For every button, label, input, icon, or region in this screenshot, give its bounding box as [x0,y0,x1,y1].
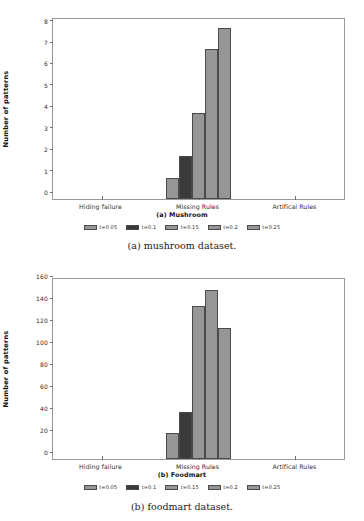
x-tick-mark [295,196,296,200]
bar [179,156,192,199]
figure-caption: (a) mushroom dataset. [0,240,364,251]
legend-swatch-icon [84,485,97,490]
chart-legend: t=0.05t=0.1t=0.15t=0.2t=0.25 [0,484,364,490]
legend-item[interactable]: t=0.15 [165,484,198,490]
y-axis-label: Number of patterns [2,331,10,408]
y-tick-label: 6 [44,60,53,67]
x-tick-label: Artifical Rules [273,203,317,210]
legend-swatch-icon [165,485,178,490]
y-tick-label: 80 [40,361,53,368]
legend-swatch-icon [208,225,221,230]
legend-swatch-icon [126,225,139,230]
legend-item[interactable]: t=0.05 [84,224,117,230]
legend-item[interactable]: t=0.25 [247,224,280,230]
bar [179,412,192,459]
legend-item[interactable]: t=0.1 [126,484,156,490]
legend-item[interactable]: t=0.1 [126,224,156,230]
y-tick-label: 0 [44,449,53,456]
legend-label: t=0.15 [181,224,199,230]
bar [166,178,179,199]
figure-b: Number of patterns020406080100120140160H… [0,260,364,521]
y-axis-label: Number of patterns [2,71,10,148]
figure-caption: (b) foodmart dataset. [0,501,364,512]
legend-label: t=0.05 [99,484,117,490]
legend-item[interactable]: t=0.2 [208,484,238,490]
y-tick-label: 100 [36,339,53,346]
y-tick-label: 3 [44,124,53,131]
y-tick-label: 2 [44,146,53,153]
figure-a: Number of patterns012345678Hiding failur… [0,0,364,260]
bar [218,328,231,459]
legend-label: t=0.1 [142,224,157,230]
y-tick-label: 40 [40,405,53,412]
legend-swatch-icon [247,225,260,230]
plot-area: 020406080100120140160 [52,278,345,460]
y-tick-label: 140 [36,295,53,302]
y-tick-label: 0 [44,189,53,196]
legend-label: t=0.25 [262,224,280,230]
figure-page: Number of patterns012345678Hiding failur… [0,0,364,521]
legend-item[interactable]: t=0.05 [84,484,117,490]
plot-area: 012345678 [52,18,345,200]
chart-subtitle: (b) Foodmart [0,471,364,479]
bar [205,290,218,459]
legend-item[interactable]: t=0.15 [165,224,198,230]
legend-label: t=0.1 [142,484,157,490]
bar [205,49,218,199]
legend-swatch-icon [247,485,260,490]
x-tick-label: Hiding failure [79,463,122,470]
x-tick-label: Missing Rules [176,463,219,470]
legend-label: t=0.25 [262,484,280,490]
y-tick-label: 4 [44,103,53,110]
bar [192,306,205,459]
legend-swatch-icon [126,485,139,490]
y-tick-label: 160 [36,273,53,280]
x-tick-label: Hiding failure [79,203,122,210]
legend-label: t=0.2 [223,484,238,490]
bar [166,433,179,459]
y-tick-label: 8 [44,17,53,24]
bar [218,28,231,199]
y-tick-label: 60 [40,383,53,390]
legend-item[interactable]: t=0.25 [247,484,280,490]
plot-inner: 012345678 [53,19,344,199]
x-tick-label: Missing Rules [176,203,219,210]
plot-inner: 020406080100120140160 [53,279,344,459]
chart-legend: t=0.05t=0.1t=0.15t=0.2t=0.25 [0,224,364,230]
y-tick-label: 1 [44,167,53,174]
y-tick-label: 20 [40,427,53,434]
legend-item[interactable]: t=0.2 [208,224,238,230]
legend-swatch-icon [84,225,97,230]
x-tick-mark [102,196,103,200]
legend-label: t=0.05 [99,224,117,230]
legend-swatch-icon [165,225,178,230]
bar [192,113,205,199]
chart-subtitle: (a) Mushroom [0,211,364,219]
y-tick-label: 120 [36,317,53,324]
x-tick-mark [102,456,103,460]
x-tick-mark [295,456,296,460]
legend-label: t=0.15 [181,484,199,490]
y-tick-label: 5 [44,81,53,88]
y-tick-label: 7 [44,39,53,46]
legend-swatch-icon [208,485,221,490]
legend-label: t=0.2 [223,224,238,230]
x-tick-label: Artifical Rules [273,463,317,470]
